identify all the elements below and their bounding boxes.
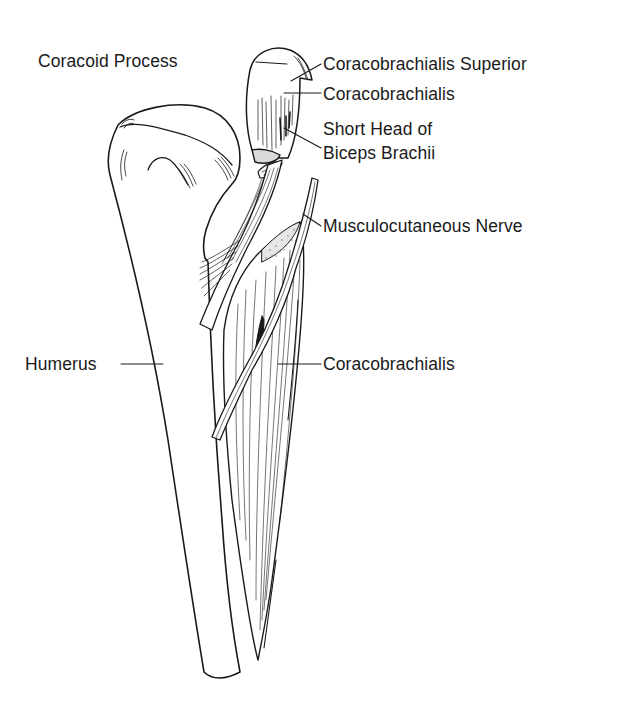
label-coracobrachialis-lower: Coracobrachialis bbox=[323, 354, 455, 375]
label-musculocutaneous-nerve: Musculocutaneous Nerve bbox=[323, 216, 523, 237]
label-short-head-line1: Short Head of bbox=[323, 119, 432, 140]
coracobrachialis-muscle bbox=[223, 222, 303, 660]
label-coracobrachialis-upper: Coracobrachialis bbox=[323, 84, 455, 105]
coracoid-process-bone bbox=[246, 48, 312, 178]
label-humerus: Humerus bbox=[25, 354, 97, 375]
label-short-head-line2: Biceps Brachii bbox=[323, 143, 435, 164]
label-coracobrachialis-superior: Coracobrachialis Superior bbox=[323, 54, 527, 75]
humerus-bone bbox=[108, 105, 240, 678]
label-coracoid-process: Coracoid Process bbox=[38, 51, 178, 72]
